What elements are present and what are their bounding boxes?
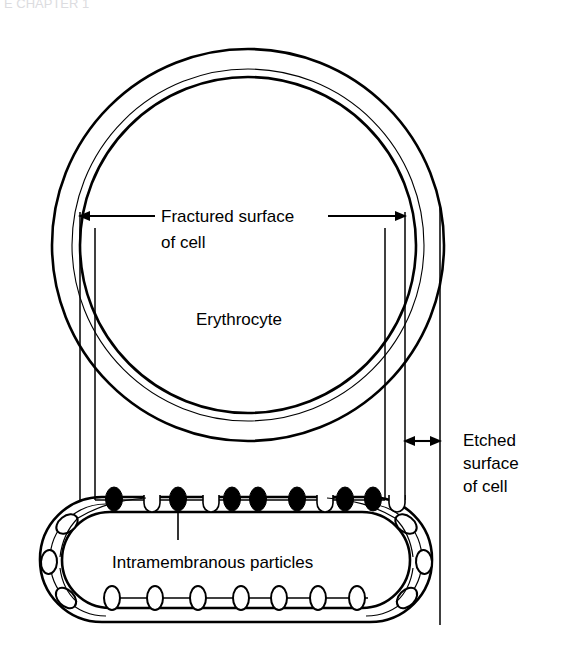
cell-middle-circle <box>72 69 424 421</box>
particle <box>289 487 306 511</box>
bottom-ellipse <box>104 586 120 610</box>
fractured-surface-label-line1: Fractured surface <box>161 207 294 226</box>
erythrocyte-label: Erythrocyte <box>196 310 282 329</box>
etched-surface-label-line1: Etched <box>463 431 516 450</box>
particle <box>250 487 267 511</box>
header-text-fragment: E CHAPTER 1 <box>4 0 89 11</box>
etched-ellipse <box>415 549 433 574</box>
membrane-pit <box>203 495 219 512</box>
bottom-ellipse <box>190 586 206 610</box>
particle <box>106 487 123 511</box>
membrane-pit <box>144 495 160 512</box>
membrane-pit <box>317 495 333 512</box>
etched-surface-arrow-group <box>403 436 442 446</box>
erythrocyte-freeze-fracture-diagram: E CHAPTER 1 Fractured surface of cell <box>0 0 561 665</box>
bottom-ellipse <box>349 586 365 610</box>
particle <box>170 487 187 511</box>
membrane-pit <box>389 495 405 512</box>
bottom-ellipse <box>233 586 249 610</box>
figure-container: E CHAPTER 1 Fractured surface of cell <box>0 0 561 665</box>
cropped-header-text: E CHAPTER 1 <box>4 0 89 11</box>
particle <box>224 487 241 511</box>
cell-inner-circle <box>80 77 416 413</box>
etched-ellipse <box>40 549 58 574</box>
etched-surface-label-line2: surface <box>463 454 519 473</box>
bottom-ellipse <box>271 586 287 610</box>
bottom-ellipse <box>147 586 163 610</box>
etched-surface-label-line3: of cell <box>463 477 507 496</box>
intramembranous-particles-label: Intramembranous particles <box>112 553 313 572</box>
bottom-ellipse <box>310 586 326 610</box>
fractured-surface-label-line2: of cell <box>161 233 205 252</box>
